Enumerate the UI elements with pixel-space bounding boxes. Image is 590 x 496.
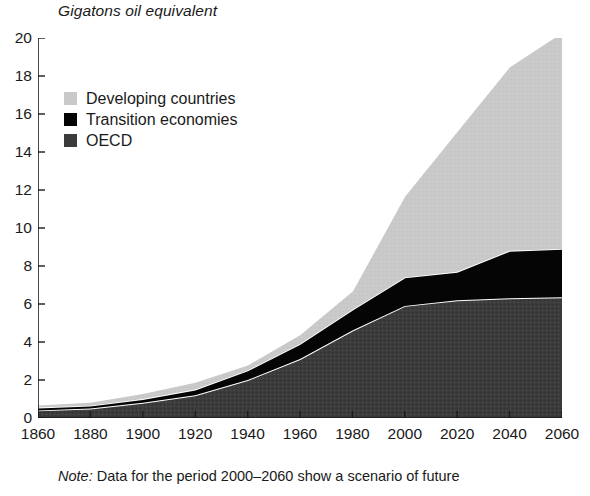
y-axis-tick-label: 4 — [6, 333, 32, 351]
legend-item-label: Transition economies — [86, 112, 237, 128]
y-axis-tick-label: 16 — [6, 105, 32, 123]
square-swatch-icon — [64, 134, 77, 147]
y-axis-tick-labels: 02468101214161820 — [0, 0, 32, 496]
y-axis-tick-label: 8 — [6, 257, 32, 275]
page-title: Gigatons oil equivalent — [58, 2, 217, 20]
chart-note: Note: Data for the period 2000–2060 show… — [58, 468, 459, 484]
y-axis-tick-label: 18 — [6, 67, 32, 85]
x-axis-tick-labels: 1860188019001920194019601980200020202040… — [0, 425, 590, 449]
x-axis-tick-label: 1860 — [21, 425, 55, 443]
x-axis-tick-label: 1940 — [230, 425, 264, 443]
list-item: Developing countries — [64, 88, 237, 109]
x-axis-tick-label: 1960 — [283, 425, 317, 443]
y-axis-tick-label: 14 — [6, 143, 32, 161]
y-axis-tick-label: 6 — [6, 295, 32, 313]
x-axis-tick-label: 2040 — [492, 425, 526, 443]
y-axis-tick-label: 12 — [6, 181, 32, 199]
x-axis-tick-label: 2020 — [440, 425, 474, 443]
y-axis-tick-label: 20 — [6, 29, 32, 47]
square-swatch-icon — [64, 113, 77, 126]
legend-item-label: OECD — [86, 133, 132, 149]
chart-legend: Developing countries Transition economie… — [64, 88, 237, 151]
note-keyword: Note: — [58, 468, 93, 484]
list-item: Transition economies — [64, 109, 237, 130]
x-axis-tick-label: 2060 — [545, 425, 579, 443]
square-swatch-icon — [64, 92, 77, 105]
x-axis-tick-label: 1880 — [73, 425, 107, 443]
note-text: Data for the period 2000–2060 show a sce… — [93, 468, 460, 484]
y-axis-tick-label: 10 — [6, 219, 32, 237]
legend-item-label: Developing countries — [86, 91, 235, 107]
y-axis-tick-label: 2 — [6, 371, 32, 389]
x-axis-tick-label: 1980 — [335, 425, 369, 443]
x-axis-tick-label: 1900 — [126, 425, 160, 443]
x-axis-tick-label: 1920 — [178, 425, 212, 443]
x-axis-tick-label: 2000 — [388, 425, 422, 443]
list-item: OECD — [64, 130, 237, 151]
